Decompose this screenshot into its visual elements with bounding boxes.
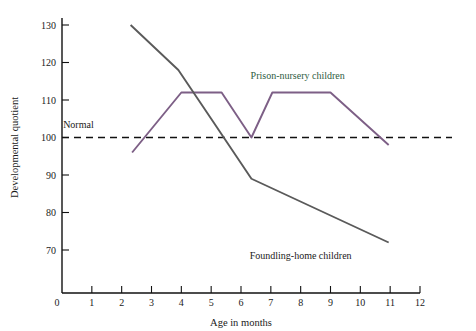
y-tick-label: 100 bbox=[41, 132, 56, 143]
y-tick-label: 120 bbox=[41, 57, 56, 68]
y-tick-label: 80 bbox=[46, 207, 56, 218]
origin-tick-label: 0 bbox=[55, 297, 60, 308]
annotation-label: Normal bbox=[63, 119, 94, 130]
x-tick-label: 6 bbox=[239, 297, 244, 308]
x-tick-label: 12 bbox=[415, 297, 425, 308]
series-line-prison-nursery-children bbox=[132, 93, 389, 153]
line-chart-svg: 7080901001101201300123456789101112 Norma… bbox=[0, 0, 476, 331]
axes bbox=[62, 18, 420, 293]
x-tick-label: 7 bbox=[268, 297, 273, 308]
x-tick-label: 5 bbox=[209, 297, 214, 308]
x-tick-label: 4 bbox=[179, 297, 184, 308]
annotation-label: Foundling-home children bbox=[250, 250, 352, 261]
y-tick-label: 70 bbox=[46, 245, 56, 256]
chart-annotations: NormalPrison-nursery childrenFoundling-h… bbox=[63, 70, 352, 261]
x-tick-label: 10 bbox=[355, 297, 365, 308]
chart-container: 7080901001101201300123456789101112 Norma… bbox=[0, 0, 476, 331]
x-tick-label: 1 bbox=[89, 297, 94, 308]
y-tick-label: 90 bbox=[46, 170, 56, 181]
x-axis-title: Age in months bbox=[210, 317, 272, 328]
data-series bbox=[131, 25, 389, 243]
y-tick-label: 130 bbox=[41, 20, 56, 31]
series-line-foundling-home-children bbox=[131, 25, 389, 243]
x-tick-label: 3 bbox=[149, 297, 154, 308]
x-tick-label: 2 bbox=[119, 297, 124, 308]
x-tick-label: 9 bbox=[328, 297, 333, 308]
annotation-label: Prison-nursery children bbox=[251, 70, 345, 81]
x-tick-label: 11 bbox=[385, 297, 395, 308]
tick-labels: 7080901001101201300123456789101112 bbox=[41, 20, 425, 309]
y-tick-label: 110 bbox=[41, 95, 56, 106]
x-tick-label: 8 bbox=[298, 297, 303, 308]
y-axis-title: Developmental quotient bbox=[9, 97, 20, 198]
